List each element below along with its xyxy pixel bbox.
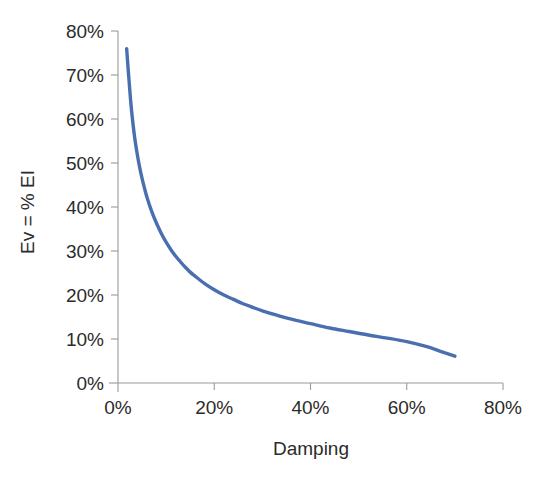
y-tick-label: 40% xyxy=(66,197,104,218)
y-tick-label: 10% xyxy=(66,329,104,350)
x-tick-label: 40% xyxy=(291,397,329,418)
y-tick-label: 30% xyxy=(66,241,104,262)
chart-container: 0%10%20%30%40%50%60%70%80% 0%20%40%60%80… xyxy=(0,0,553,477)
y-tick-label: 70% xyxy=(66,65,104,86)
y-tick-label: 20% xyxy=(66,285,104,306)
x-tick-label: 0% xyxy=(104,397,132,418)
x-tick-label: 20% xyxy=(195,397,233,418)
y-tick-label: 50% xyxy=(66,153,104,174)
x-tick-label: 80% xyxy=(484,397,522,418)
x-tick-label: 60% xyxy=(388,397,426,418)
line-chart: 0%10%20%30%40%50%60%70%80% 0%20%40%60%80… xyxy=(0,0,553,477)
x-axis-title: Damping xyxy=(273,438,349,459)
y-tick-label: 0% xyxy=(77,373,105,394)
y-axis-title: Ev = % EI xyxy=(17,170,38,254)
y-tick-label: 80% xyxy=(66,21,104,42)
y-tick-label: 60% xyxy=(66,109,104,130)
